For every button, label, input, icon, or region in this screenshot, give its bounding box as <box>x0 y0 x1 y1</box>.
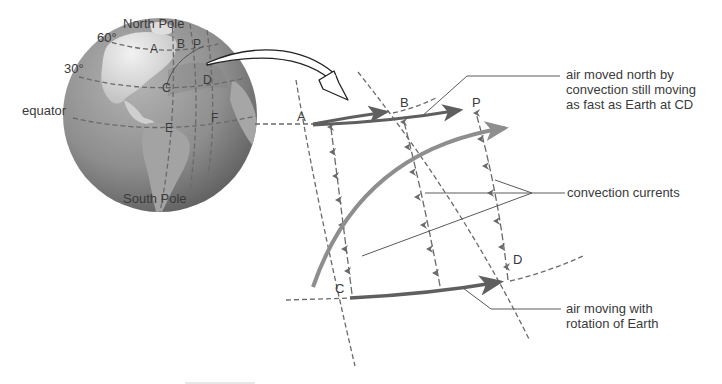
globe-point-d: D <box>203 73 212 87</box>
callout-bottom: air moving with rotation of Earth <box>566 301 659 331</box>
globe-point-b: B <box>177 37 185 51</box>
callout-convection-currents: convection currents <box>567 185 680 200</box>
leader-convection-col1 <box>362 193 532 256</box>
detail-grid: A B P C D <box>255 72 583 366</box>
equator-label: equator <box>22 103 67 118</box>
detail-point-c: C <box>335 281 344 296</box>
callout-top-line-2: convection still moving <box>566 82 696 97</box>
convection-column-1 <box>331 127 352 294</box>
convection-column-3 <box>476 113 508 280</box>
south-pole-label: South Pole <box>123 191 187 206</box>
callout-bottom-line-1: air moving with <box>566 301 653 316</box>
deflected-path-arrow <box>313 128 505 287</box>
arrow-a-to-p <box>313 110 460 125</box>
latitude-30-label: 30° <box>64 61 84 76</box>
globe-point-f: F <box>211 111 218 125</box>
callout-bottom-line-2: rotation of Earth <box>566 316 659 331</box>
callout-top-line-1: air moved north by <box>566 67 674 82</box>
globe-point-p: P <box>193 37 201 51</box>
latitude-60-label: 60° <box>97 30 117 45</box>
detail-point-d: D <box>513 252 522 267</box>
callout-top: air moved north by convection still movi… <box>566 67 696 112</box>
globe-point-e: E <box>165 121 173 135</box>
globe-point-a: A <box>150 42 158 56</box>
convection-coriolis-diagram: A B P C D E F North Pole South Pole 60° … <box>0 0 722 384</box>
detail-latitude-c <box>286 298 352 300</box>
detail-point-p: P <box>472 95 481 110</box>
globe-point-c: C <box>162 81 171 95</box>
north-pole-label: North Pole <box>123 16 184 31</box>
detail-point-a: A <box>297 109 306 124</box>
leader-convection-col3 <box>495 180 532 193</box>
leader-top <box>421 76 560 117</box>
detail-point-b: B <box>400 95 409 110</box>
arrow-c-to-d <box>350 282 500 298</box>
callout-top-line-3: as fast as Earth at CD <box>566 97 693 112</box>
globe: A B P C D E F North Pole South Pole 60° … <box>22 16 257 212</box>
